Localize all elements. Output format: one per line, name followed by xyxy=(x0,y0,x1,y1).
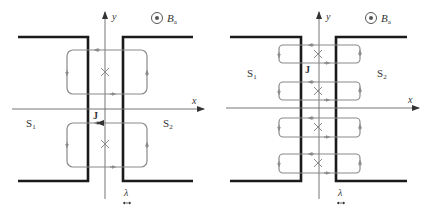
lambda-width-arrow xyxy=(337,202,345,205)
vortex-cross-icon xyxy=(314,159,322,167)
left-panel: Ba y x S1 S2 J λ xyxy=(12,11,204,205)
current-j-label: J xyxy=(305,64,310,75)
y-axis-label: y xyxy=(111,11,117,22)
lambda-label: λ xyxy=(123,187,129,198)
vortex-cross-icon xyxy=(314,50,322,58)
s1-label: S1 xyxy=(247,67,257,81)
josephson-junction-diagram: Ba y x S1 S2 J λ xyxy=(0,0,430,212)
lambda-label: λ xyxy=(337,187,343,198)
current-loop-lower xyxy=(67,123,147,167)
current-loop-upper xyxy=(67,50,147,94)
field-out-of-page-icon xyxy=(152,13,163,24)
s2-label: S2 xyxy=(163,117,173,131)
field-label: Ba xyxy=(381,12,392,26)
electrode-s1-outline xyxy=(230,37,301,181)
y-axis-label: y xyxy=(325,11,331,22)
current-j-label: J xyxy=(93,110,98,121)
vortex-cross-icon xyxy=(314,87,322,95)
right-panel: Ba y x S1 S2 J λ xyxy=(226,11,419,205)
lambda-width-arrow xyxy=(123,202,131,205)
s2-label: S2 xyxy=(377,67,387,81)
s1-label: S1 xyxy=(26,117,36,131)
x-axis-label: x xyxy=(191,95,197,106)
x-axis-label: x xyxy=(407,94,413,105)
electrode-s2-outline xyxy=(336,37,407,181)
field-out-of-page-icon xyxy=(366,13,377,24)
field-label: Ba xyxy=(167,12,178,26)
vortex-cross-icon xyxy=(314,123,322,131)
